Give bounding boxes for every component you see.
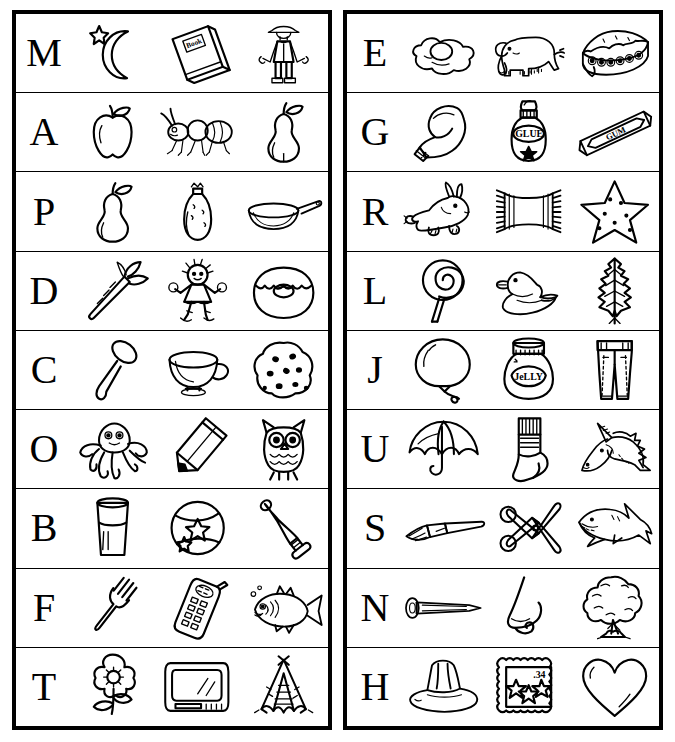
worksheet-page: M Book [0,0,675,742]
table-row[interactable]: E [347,14,659,93]
table-row[interactable]: M Book [16,14,328,93]
picture-nail[interactable] [401,569,486,647]
picture-bat[interactable] [241,489,326,567]
row-letter-f: F [18,588,70,628]
picture-sock[interactable] [486,410,571,488]
stamp-label: .34 [533,669,545,680]
table-row[interactable]: N [347,569,659,648]
row-letter-t: T [18,667,70,707]
picture-umbrella[interactable] [401,410,486,488]
picture-rug[interactable] [486,172,571,250]
row-letter-u: U [349,429,401,469]
table-row[interactable]: F [16,569,328,648]
table-row[interactable]: R [347,172,659,251]
table-row[interactable]: B [16,489,328,568]
table-row[interactable]: J JeLLY [347,331,659,410]
table-row[interactable]: C [16,331,328,410]
table-row[interactable]: L [347,252,659,331]
picture-table-left: M Book [12,10,332,730]
row-letter-g: G [349,112,401,152]
picture-heart[interactable] [572,648,657,726]
picture-balloon[interactable] [401,331,486,409]
picture-television[interactable] [155,648,240,726]
table-row[interactable]: S [347,489,659,568]
table-row[interactable]: U [347,410,659,489]
picture-rabbit[interactable] [401,172,486,250]
picture-spoon[interactable] [70,331,155,409]
glue-label: GLUE [515,129,543,140]
picture-teepee[interactable] [241,648,326,726]
row-letter-r: R [349,192,401,232]
picture-duck[interactable] [486,252,571,330]
table-row[interactable]: H .34 [347,648,659,726]
table-row[interactable]: O [16,410,328,489]
row-letter-c: C [18,350,70,390]
picture-ball[interactable] [155,489,240,567]
picture-glass[interactable] [70,489,155,567]
picture-pinata[interactable] [155,172,240,250]
picture-shark[interactable] [572,489,657,567]
picture-fork[interactable] [70,569,155,647]
picture-jelly[interactable]: JeLLY [486,331,571,409]
row-letter-b: B [18,508,70,548]
picture-pie[interactable] [572,14,657,92]
row-letter-a: A [18,112,70,152]
picture-man[interactable] [241,14,326,92]
table-row[interactable]: A [16,93,328,172]
gum-label: GUM [604,125,627,143]
picture-table-right: E [343,10,663,730]
picture-star[interactable] [572,172,657,250]
picture-doll[interactable] [155,252,240,330]
picture-cup[interactable] [155,331,240,409]
picture-gum[interactable]: GUM [572,93,657,171]
picture-apple[interactable] [70,93,155,171]
picture-cookie[interactable] [241,331,326,409]
picture-stamp[interactable]: .34 [486,648,571,726]
row-letter-j: J [349,350,401,390]
row-letter-o: O [18,429,70,469]
row-letter-p: P [18,192,70,232]
picture-jeans[interactable] [572,331,657,409]
picture-pear[interactable] [241,93,326,171]
picture-glove[interactable] [401,93,486,171]
row-letter-n: N [349,588,401,628]
row-letter-s: S [349,508,401,548]
picture-tree[interactable] [572,569,657,647]
picture-paintbrush[interactable] [401,489,486,567]
picture-nose[interactable] [486,569,571,647]
picture-pan[interactable] [241,172,326,250]
picture-flower[interactable] [70,648,155,726]
picture-moon[interactable] [70,14,155,92]
picture-lollipop[interactable] [401,252,486,330]
picture-book[interactable]: Book [155,14,240,92]
table-row[interactable]: D [16,252,328,331]
jelly-label: JeLLY [515,371,544,382]
picture-leaf[interactable] [572,252,657,330]
row-letter-e: E [349,33,401,73]
picture-elephant[interactable] [486,14,571,92]
table-row[interactable]: G GLUE [347,93,659,172]
picture-pencil[interactable] [155,410,240,488]
picture-fish[interactable] [241,569,326,647]
row-letter-m: M [18,33,70,73]
row-letter-h: H [349,667,401,707]
picture-ant[interactable] [155,93,240,171]
picture-glue[interactable]: GLUE [486,93,571,171]
picture-owl[interactable] [241,410,326,488]
picture-scissors[interactable] [486,489,571,567]
picture-egg[interactable] [401,14,486,92]
row-letter-l: L [349,271,401,311]
picture-carrot[interactable] [70,252,155,330]
picture-pear[interactable] [70,172,155,250]
row-letter-d: D [18,271,70,311]
picture-phone[interactable] [155,569,240,647]
table-row[interactable]: P [16,172,328,251]
picture-octopus[interactable] [70,410,155,488]
picture-unicorn[interactable] [572,410,657,488]
table-row[interactable]: T [16,648,328,726]
picture-donut[interactable] [241,252,326,330]
picture-hat[interactable] [401,648,486,726]
